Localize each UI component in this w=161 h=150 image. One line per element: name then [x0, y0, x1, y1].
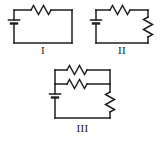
circuit-label-three: III — [55, 122, 110, 134]
circuit-label-one: I — [14, 44, 72, 56]
circuit-label-two: II — [96, 44, 148, 56]
